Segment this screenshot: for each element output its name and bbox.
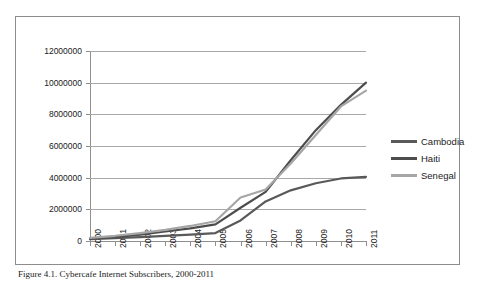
legend-swatch-icon [391, 140, 417, 143]
legend-item-label: Cambodia [421, 136, 464, 147]
legend-item-label: Senegal [421, 170, 456, 181]
chart-plot-area: 1200000010000000800000060000004000000200… [90, 51, 366, 241]
x-axis-tick-mark [190, 242, 191, 246]
x-axis-tick-mark [215, 242, 216, 246]
chart-legend: CambodiaHaitiSenegal [391, 133, 464, 184]
legend-item-label: Haiti [421, 153, 440, 164]
x-axis-tick-mark [341, 242, 342, 246]
x-axis-tick-label: 2011 [370, 230, 379, 248]
x-axis-tick-mark [115, 242, 116, 246]
x-axis-tick-mark [241, 242, 242, 246]
figure-container: 1200000010000000800000060000004000000200… [0, 0, 477, 281]
x-axis-tick-mark [165, 242, 166, 246]
chart-series-lines [90, 51, 366, 242]
legend-item-senegal: Senegal [391, 167, 464, 184]
y-axis-tick-label: 10000000 [44, 79, 82, 87]
x-axis-tick-mark [316, 242, 317, 246]
legend-swatch-icon [391, 157, 417, 160]
legend-swatch-icon [391, 174, 417, 177]
y-axis-tick-label: 2000000 [49, 205, 82, 213]
legend-item-cambodia: Cambodia [391, 133, 464, 150]
y-axis-tick-label: 0 [77, 237, 82, 245]
figure-frame: 1200000010000000800000060000004000000200… [15, 16, 460, 265]
x-axis-tick-mark [90, 242, 91, 246]
figure-caption: Figure 4.1. Cybercafe Internet Subscribe… [18, 269, 214, 279]
y-axis-tick-label: 8000000 [49, 110, 82, 118]
x-axis-tick-mark [366, 242, 367, 246]
y-axis-tick-label: 12000000 [44, 47, 82, 55]
x-axis-tick-mark [291, 242, 292, 246]
x-axis-tick-mark [140, 242, 141, 246]
series-line-haiti [90, 83, 366, 239]
legend-item-haiti: Haiti [391, 150, 464, 167]
y-axis-tick-label: 6000000 [49, 142, 82, 150]
x-axis-tick-mark [266, 242, 267, 246]
y-axis-tick-label: 4000000 [49, 174, 82, 182]
